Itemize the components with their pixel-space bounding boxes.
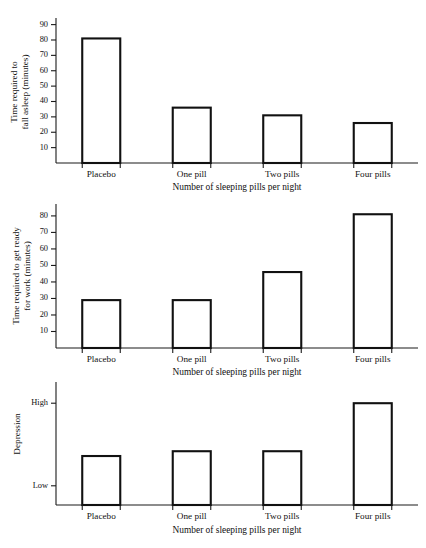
y-axis-title-line: for work (minutes) xyxy=(22,241,32,310)
chart-depression: LowHighPlaceboOne pillTwo pillsFour pill… xyxy=(0,372,426,548)
chart-1-plot-area: 102030405060708090PlaceboOne pillTwo pil… xyxy=(0,0,426,192)
x-category-label: One pill xyxy=(177,169,207,179)
x-category-label: One pill xyxy=(177,511,207,521)
y-tick-label: Low xyxy=(33,481,49,490)
y-tick-label: 40 xyxy=(40,96,48,105)
x-category-label: Two pills xyxy=(265,354,300,364)
chart-2-plot-area: 1020304050607080PlaceboOne pillTwo pills… xyxy=(0,186,426,378)
bar xyxy=(354,403,392,505)
y-tick-label: 30 xyxy=(40,293,48,302)
bar xyxy=(82,300,120,348)
bar xyxy=(354,214,392,348)
bar xyxy=(82,456,120,505)
y-axis-title-line: Time required to xyxy=(9,61,19,123)
chart-1-svg: 102030405060708090PlaceboOne pillTwo pil… xyxy=(0,0,426,192)
y-tick-label: High xyxy=(31,398,49,407)
bar xyxy=(173,300,211,348)
y-tick-label: 70 xyxy=(40,227,48,236)
x-category-label: Two pills xyxy=(265,169,300,179)
y-tick-label: 30 xyxy=(40,112,48,121)
y-tick-label: 60 xyxy=(40,244,48,253)
bar xyxy=(173,108,211,163)
x-axis-title: Number of sleeping pills per night xyxy=(173,525,302,535)
y-tick-label: 40 xyxy=(40,277,48,286)
y-tick-label: 10 xyxy=(40,143,48,152)
x-category-label: One pill xyxy=(177,354,207,364)
x-category-label: Four pills xyxy=(355,511,391,521)
y-tick-label: 50 xyxy=(40,260,48,269)
chart-time-to-get-ready: 1020304050607080PlaceboOne pillTwo pills… xyxy=(0,186,426,378)
x-category-label: Four pills xyxy=(355,354,391,364)
y-tick-label: 70 xyxy=(40,50,48,59)
bar xyxy=(263,451,301,505)
chart-3-plot-area: LowHighPlaceboOne pillTwo pillsFour pill… xyxy=(0,372,426,548)
bar xyxy=(263,115,301,163)
y-tick-label: 50 xyxy=(40,81,48,90)
y-tick-label: 20 xyxy=(40,127,48,136)
bar xyxy=(354,123,392,163)
y-axis-title-line: Time required to get ready xyxy=(11,227,21,325)
x-category-label: Placebo xyxy=(87,354,116,364)
chart-3-svg: LowHighPlaceboOne pillTwo pillsFour pill… xyxy=(0,372,426,548)
x-category-label: Placebo xyxy=(87,169,116,179)
y-tick-label: 80 xyxy=(40,211,48,220)
x-category-label: Two pills xyxy=(265,511,300,521)
y-tick-label: 20 xyxy=(40,310,48,319)
chart-2-svg: 1020304050607080PlaceboOne pillTwo pills… xyxy=(0,186,426,378)
y-tick-label: 80 xyxy=(40,35,48,44)
y-tick-label: 60 xyxy=(40,66,48,75)
y-axis-title-line: fall asleep (minutes) xyxy=(20,54,30,129)
chart-time-to-fall-asleep: 102030405060708090PlaceboOne pillTwo pil… xyxy=(0,0,426,192)
y-tick-label: 10 xyxy=(40,326,48,335)
y-axis-title-line: Depression xyxy=(12,413,22,455)
y-tick-label: 90 xyxy=(40,20,48,29)
bar xyxy=(82,38,120,163)
bar xyxy=(173,451,211,505)
x-category-label: Placebo xyxy=(87,511,116,521)
x-category-label: Four pills xyxy=(355,169,391,179)
bar xyxy=(263,272,301,348)
